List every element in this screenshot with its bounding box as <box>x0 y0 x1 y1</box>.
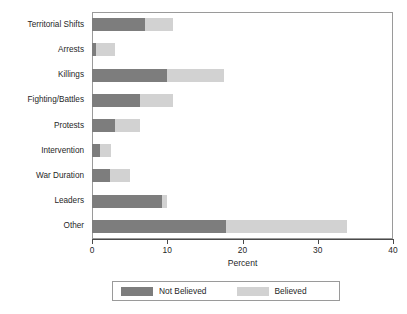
legend-entry-not-believed[interactable]: Not Believed <box>121 282 207 300</box>
x-tick-mark <box>318 239 319 244</box>
category-label: Fighting/Battles <box>28 95 84 105</box>
bar-row <box>92 119 393 132</box>
category-label: Killings <box>58 70 84 80</box>
bar-row <box>92 195 393 208</box>
x-tick-mark <box>393 239 394 244</box>
x-tick-label: 40 <box>388 245 397 255</box>
bar-segment-believed <box>145 18 173 31</box>
bar-segment-not-believed <box>92 119 115 132</box>
legend-swatch-not-believed-icon <box>121 287 153 296</box>
bar-row <box>92 94 393 107</box>
bar-segment-believed <box>226 220 347 233</box>
x-axis-title: Percent <box>92 258 393 268</box>
bar-segment-believed <box>140 94 172 107</box>
bar-segment-believed <box>167 69 224 82</box>
category-label: War Duration <box>36 171 84 181</box>
bar-segment-not-believed <box>92 144 100 157</box>
bar-row <box>92 220 393 233</box>
bar-segment-not-believed <box>92 195 162 208</box>
legend-label-believed: Believed <box>275 286 307 296</box>
bar-segment-believed <box>115 119 140 132</box>
category-axis-labels: Territorial ShiftsArrestsKillingsFightin… <box>0 12 88 239</box>
category-label: Territorial Shifts <box>28 20 84 30</box>
bar-row <box>92 69 393 82</box>
legend-label-not-believed: Not Believed <box>159 286 207 296</box>
bar-row <box>92 144 393 157</box>
category-label: Leaders <box>54 196 84 206</box>
x-tick-label: 30 <box>313 245 322 255</box>
bar-row <box>92 43 393 56</box>
bar-row <box>92 18 393 31</box>
legend-swatch-believed-icon <box>237 287 269 296</box>
category-label: Other <box>64 221 84 231</box>
bar-segment-believed <box>162 195 167 208</box>
bars-layer <box>92 12 393 239</box>
bar-segment-not-believed <box>92 94 140 107</box>
bar-segment-not-believed <box>92 169 110 182</box>
bar-row <box>92 169 393 182</box>
category-label: Intervention <box>41 146 84 156</box>
x-tick-mark <box>167 239 168 244</box>
chart-legend: Not Believed Believed <box>112 281 340 301</box>
bar-segment-believed <box>110 169 130 182</box>
legend-entry-believed[interactable]: Believed <box>237 282 307 300</box>
chart-figure: Territorial ShiftsArrestsKillingsFightin… <box>0 0 407 314</box>
bar-segment-not-believed <box>92 18 145 31</box>
x-tick-label: 20 <box>238 245 247 255</box>
x-tick-label: 0 <box>90 245 95 255</box>
x-tick-mark <box>243 239 244 244</box>
category-label: Protests <box>54 121 84 131</box>
bar-segment-not-believed <box>92 220 226 233</box>
bar-segment-not-believed <box>92 69 167 82</box>
bar-segment-believed <box>100 144 111 157</box>
x-tick-mark <box>92 239 93 244</box>
bar-segment-believed <box>96 43 115 56</box>
x-tick-label: 10 <box>163 245 172 255</box>
category-label: Arrests <box>58 45 84 55</box>
